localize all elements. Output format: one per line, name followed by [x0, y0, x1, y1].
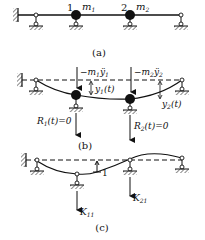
unit-disp-label: 1: [102, 168, 108, 178]
inertia-force-1-label: −m1ÿ1: [80, 67, 109, 78]
panel-a: 1 m1 2 m2 (a): [13, 1, 188, 58]
fixed-wall-icon: [13, 8, 18, 22]
disp-2-label: y2(t): [161, 99, 182, 110]
support-icon: [175, 156, 189, 173]
support-icon: [123, 158, 137, 175]
beam-dynamics-diagram: 1 m1 2 m2 (a) −m1ÿ1 −m2ÿ2 y1(t) y2(t) R1…: [0, 0, 205, 240]
mass-label-2: m2: [136, 1, 149, 13]
node-label-2: 2: [121, 2, 127, 13]
node-label-1: 1: [67, 2, 73, 13]
panel-b: −m1ÿ1 −m2ÿ2 y1(t) y2(t) R1(t)=0 R2(t)=0 …: [17, 67, 189, 151]
reaction-1-label: R1(t)=0: [36, 116, 72, 127]
disp-1-label: y1(t): [94, 84, 115, 95]
support-icon: [29, 78, 43, 95]
k21-label: K21: [132, 193, 147, 204]
mass-2: [125, 94, 135, 104]
caption-c: (c): [95, 222, 109, 233]
mass-1: [71, 90, 81, 100]
support-icon: [175, 78, 189, 95]
mass-label-1: m1: [82, 1, 95, 13]
caption-a: (a): [92, 47, 106, 58]
fixed-wall-icon: [21, 153, 26, 167]
reaction-2-label: R2(t)=0: [133, 121, 169, 132]
caption-b: (b): [78, 140, 92, 151]
deflected-beam: [37, 154, 182, 175]
support-icon: [30, 158, 44, 175]
panel-c: 1 K11 K21 (c): [21, 153, 189, 233]
inertia-force-2-label: −m2ÿ2: [134, 67, 163, 78]
k11-label: K11: [79, 207, 94, 218]
fixed-wall-icon: [17, 73, 22, 87]
